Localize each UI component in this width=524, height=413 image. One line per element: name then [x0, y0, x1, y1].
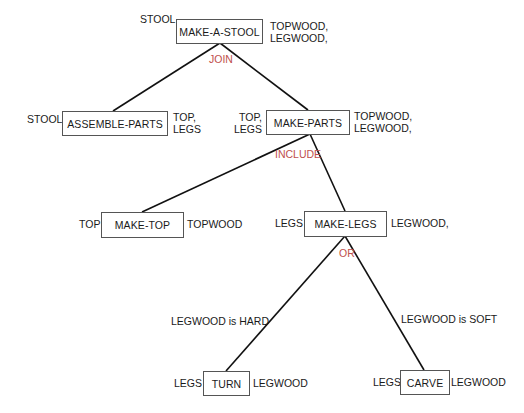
node-make-a-stool-label: MAKE-A-STOOL	[179, 26, 259, 38]
assemble-parts-output: STOOL	[27, 113, 62, 125]
node-make-top-label: MAKE-TOP	[115, 219, 170, 231]
node-turn[interactable]: TURN	[203, 371, 250, 396]
make-parts-output-2: LEGS	[232, 123, 262, 135]
node-make-top[interactable]: MAKE-TOP	[101, 212, 184, 238]
node-make-parts[interactable]: MAKE-PARTS	[266, 110, 350, 135]
make-legs-output: LEGS	[275, 217, 303, 229]
make-a-stool-output: STOOL	[140, 13, 175, 25]
turn-output: LEGS	[174, 377, 202, 389]
make-parts-output-1: TOP,	[238, 111, 262, 123]
node-make-legs-label: MAKE-LEGS	[314, 218, 376, 230]
condition-legwood-soft: LEGWOOD is SOFT	[401, 313, 497, 325]
relation-include: INCLUDE	[275, 148, 321, 160]
carve-input: LEGWOOD	[451, 376, 506, 388]
make-legs-input: LEGWOOD,	[391, 217, 449, 229]
make-parts-input-2: LEGWOOD,	[354, 122, 412, 134]
node-carve[interactable]: CARVE	[400, 370, 450, 395]
tree-edges	[0, 0, 524, 413]
relation-or: OR	[339, 247, 355, 259]
node-assemble-parts[interactable]: ASSEMBLE-PARTS	[62, 111, 168, 136]
edge-make-parts-to-make-top	[142, 134, 310, 212]
node-make-legs[interactable]: MAKE-LEGS	[304, 211, 387, 237]
make-parts-input-1: TOPWOOD,	[354, 110, 412, 122]
make-top-output: TOP	[79, 218, 100, 230]
edge-make-a-stool-to-make-parts	[220, 43, 308, 110]
edge-make-a-stool-to-assemble-parts	[113, 43, 220, 111]
node-turn-label: TURN	[212, 378, 242, 390]
make-a-stool-input-1: TOPWOOD,	[270, 20, 328, 32]
assemble-parts-input-2: LEGS	[173, 123, 201, 135]
turn-input: LEGWOOD	[253, 377, 308, 389]
edge-make-parts-to-make-legs	[310, 134, 345, 211]
assemble-parts-input-1: TOP,	[173, 111, 196, 123]
node-carve-label: CARVE	[407, 377, 444, 389]
make-a-stool-input-2: LEGWOOD,	[270, 32, 328, 44]
edge-make-legs-to-carve	[345, 236, 424, 370]
node-make-a-stool[interactable]: MAKE-A-STOOL	[176, 19, 263, 44]
node-make-parts-label: MAKE-PARTS	[274, 117, 342, 129]
condition-legwood-hard: LEGWOOD is HARD	[171, 315, 269, 327]
carve-output: LEGS	[373, 376, 401, 388]
node-assemble-parts-label: ASSEMBLE-PARTS	[67, 118, 163, 130]
relation-join: JOIN	[209, 53, 233, 65]
make-top-input: TOPWOOD	[187, 218, 242, 230]
edge-make-legs-to-turn	[226, 236, 345, 371]
